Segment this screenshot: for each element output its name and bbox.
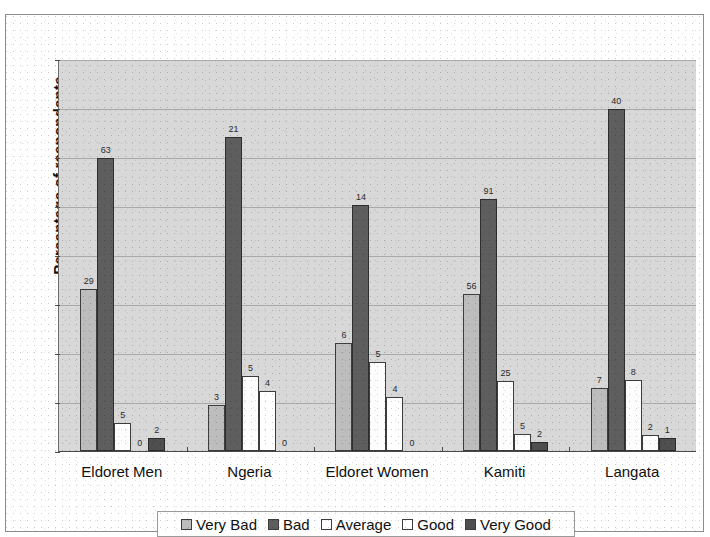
- bar: [114, 423, 131, 451]
- bar: [97, 158, 114, 451]
- bar-group: 2963502: [59, 60, 187, 451]
- bar-value-label: 0: [137, 438, 142, 448]
- y-tick-mark: [55, 452, 60, 453]
- bar: [608, 109, 625, 451]
- x-tick-label: Eldoret Women: [313, 463, 441, 480]
- bar-value-label: 5: [248, 363, 253, 373]
- bar-value-label: 7: [597, 375, 602, 385]
- bar: [642, 435, 659, 451]
- bar: [386, 397, 403, 451]
- bar-value-label: 2: [537, 429, 542, 439]
- bar-value-label: 25: [501, 368, 511, 378]
- legend-label: Good: [417, 516, 454, 533]
- bar-value-label: 0: [282, 438, 287, 448]
- chart-legend: Very BadBadAverageGoodVery Good: [157, 511, 575, 537]
- bar: [514, 434, 531, 451]
- bar-value-label: 4: [265, 378, 270, 388]
- bar: [335, 343, 352, 451]
- bar-value-label: 2: [648, 422, 653, 432]
- x-tick-label: Kamiti: [441, 463, 569, 480]
- bar: [148, 438, 165, 451]
- bar-value-label: 91: [484, 186, 494, 196]
- bar-value-label: 14: [356, 192, 366, 202]
- bar-value-label: 5: [375, 349, 380, 359]
- x-tick-label: Langata: [568, 463, 696, 480]
- bar-value-label: 3: [214, 392, 219, 402]
- bar: [531, 442, 548, 451]
- legend-item: Good: [402, 516, 454, 533]
- bar: [80, 289, 97, 451]
- legend-label: Bad: [283, 516, 310, 533]
- bar: [225, 137, 242, 451]
- plot-area: 01020304050607080 2963502321540614540569…: [58, 60, 696, 452]
- bar-value-label: 4: [392, 384, 397, 394]
- legend-swatch-icon: [268, 519, 279, 530]
- legend-swatch-icon: [321, 519, 332, 530]
- bar-value-label: 5: [120, 410, 125, 420]
- bar-value-label: 40: [611, 96, 621, 106]
- bar-value-label: 63: [101, 145, 111, 155]
- legend-label: Very Bad: [196, 516, 257, 533]
- bar: [480, 199, 497, 451]
- bar-value-label: 56: [467, 281, 477, 291]
- bar: [463, 294, 480, 451]
- bar: [497, 381, 514, 451]
- x-tick-label: Ngeria: [186, 463, 314, 480]
- legend-swatch-icon: [465, 519, 476, 530]
- legend-swatch-icon: [402, 519, 413, 530]
- bar-group: 614540: [314, 60, 442, 451]
- bar: [242, 376, 259, 451]
- x-tick-label: Eldoret Men: [58, 463, 186, 480]
- bar-value-label: 5: [520, 421, 525, 431]
- legend-item: Very Good: [465, 516, 551, 533]
- legend-item: Very Bad: [181, 516, 257, 533]
- x-group-separator: [314, 447, 315, 451]
- x-group-separator: [442, 447, 443, 451]
- bar-value-label: 21: [228, 124, 238, 134]
- x-group-separator: [569, 447, 570, 451]
- bar-group: 56912552: [442, 60, 570, 451]
- legend-item: Bad: [268, 516, 310, 533]
- bar-value-label: 29: [84, 276, 94, 286]
- legend-swatch-icon: [181, 519, 192, 530]
- bar-value-label: 1: [665, 425, 670, 435]
- legend-item: Average: [321, 516, 392, 533]
- bar: [659, 438, 676, 451]
- figure-frame: Percentage of respondents 01020304050607…: [5, 14, 704, 532]
- bar-group: 321540: [187, 60, 315, 451]
- bar: [352, 205, 369, 451]
- bar: [369, 362, 386, 451]
- bar: [259, 391, 276, 451]
- bar: [208, 405, 225, 451]
- bar-value-label: 6: [341, 330, 346, 340]
- bar-value-label: 0: [409, 438, 414, 448]
- bar-value-label: 2: [154, 425, 159, 435]
- x-group-separator: [187, 447, 188, 451]
- bar-group: 740821: [569, 60, 697, 451]
- bar: [625, 380, 642, 451]
- legend-label: Very Good: [480, 516, 551, 533]
- bar-value-label: 8: [631, 367, 636, 377]
- bar: [591, 388, 608, 451]
- legend-label: Average: [336, 516, 392, 533]
